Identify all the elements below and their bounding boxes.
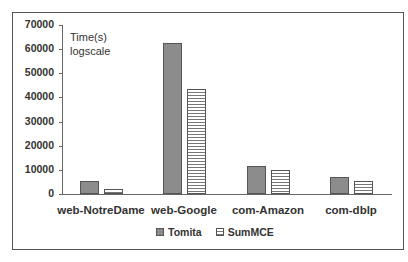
- legend-item-summce: SumMCE: [216, 226, 274, 238]
- legend-item-tomita: Tomita: [156, 226, 202, 238]
- y-tick-label: 60000: [8, 42, 54, 54]
- y-tick-mark: [59, 122, 63, 123]
- y-tick-mark: [59, 25, 63, 26]
- bar-summce-com-amazon: [271, 170, 290, 194]
- x-tick-label: com-Amazon: [223, 204, 313, 216]
- y-tick-label: 50000: [8, 66, 54, 78]
- y-tick-label: 70000: [8, 18, 54, 30]
- y-tick-label: 10000: [8, 163, 54, 175]
- x-tick-label: com-dblp: [306, 204, 396, 216]
- legend: Tomita SumMCE: [156, 226, 274, 238]
- bar-summce-com-dblp: [354, 181, 373, 194]
- bar-tomita-web-google: [163, 43, 182, 194]
- legend-swatch-summce: [216, 228, 224, 236]
- y-tick-label: 0: [8, 187, 54, 199]
- axis-annotation: Time(s) logscale: [70, 30, 110, 58]
- x-tick-label: web-NotreDame: [56, 204, 146, 216]
- y-tick-mark: [59, 97, 63, 98]
- y-tick-label: 20000: [8, 139, 54, 151]
- annotation-line-2: logscale: [70, 44, 110, 58]
- y-axis: [62, 25, 63, 194]
- bar-summce-web-notredame: [104, 189, 123, 194]
- annotation-line-1: Time(s): [70, 30, 110, 44]
- bar-tomita-web-notredame: [80, 181, 99, 194]
- y-tick-label: 40000: [8, 90, 54, 102]
- x-tick-label: web-Google: [139, 204, 229, 216]
- y-tick-mark: [59, 146, 63, 147]
- y-tick-mark: [59, 194, 63, 195]
- legend-swatch-tomita: [156, 228, 164, 236]
- bar-tomita-com-dblp: [330, 177, 349, 194]
- y-tick-label: 30000: [8, 115, 54, 127]
- legend-label-tomita: Tomita: [168, 226, 202, 238]
- y-tick-mark: [59, 73, 63, 74]
- y-tick-mark: [59, 170, 63, 171]
- bar-tomita-com-amazon: [247, 166, 266, 194]
- x-axis: [62, 194, 392, 195]
- y-tick-mark: [59, 49, 63, 50]
- legend-label-summce: SumMCE: [228, 226, 274, 238]
- bar-summce-web-google: [187, 89, 206, 194]
